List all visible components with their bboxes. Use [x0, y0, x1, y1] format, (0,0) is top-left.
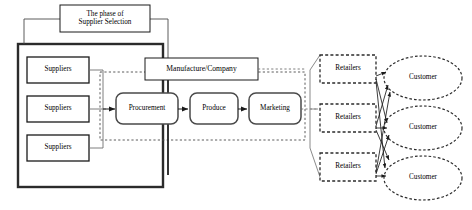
retailer-fan-bracket: [310, 55, 320, 177]
diagram-canvas: The phase of Supplier Selection Supplier…: [0, 0, 472, 210]
phase-box: [60, 5, 150, 32]
supplier-3-link: [89, 109, 103, 148]
retailer-box-2: [320, 104, 376, 132]
customer-ellipse-3: [384, 156, 462, 200]
phase-to-company-connector: [150, 19, 168, 58]
marketing-box: [249, 93, 301, 124]
supplier-box-1: [27, 57, 89, 83]
produce-box: [190, 93, 238, 124]
supply-chain-diagram: [0, 0, 472, 210]
company-box: [145, 58, 258, 80]
supplier-box-2: [27, 96, 89, 122]
supplier-box-3: [27, 135, 89, 161]
phase-to-container-connector: [24, 19, 60, 44]
retailer-box-1: [320, 55, 376, 83]
procurement-box: [116, 93, 178, 124]
retailer-box-3: [320, 153, 376, 181]
customer-ellipse-1: [384, 56, 462, 100]
retailer1-to-customer3-arrow: [376, 81, 385, 168]
supplier-1-link: [89, 70, 103, 109]
customer-ellipse-2: [384, 106, 462, 150]
